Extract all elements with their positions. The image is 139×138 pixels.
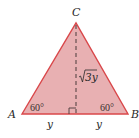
angle-label-b: 60° [100, 102, 114, 113]
vertex-label-c: C [72, 6, 81, 19]
altitude-label: 3y [85, 71, 99, 83]
triangle-diagram: C A B 60° 60° 3y y y [0, 0, 139, 138]
segment-label-left: y [46, 118, 54, 130]
angle-label-a: 60° [30, 102, 44, 113]
triangle-abc [22, 23, 128, 114]
vertex-label-b: B [130, 108, 139, 121]
vertex-label-a: A [7, 108, 16, 121]
segment-label-right: y [95, 118, 103, 130]
